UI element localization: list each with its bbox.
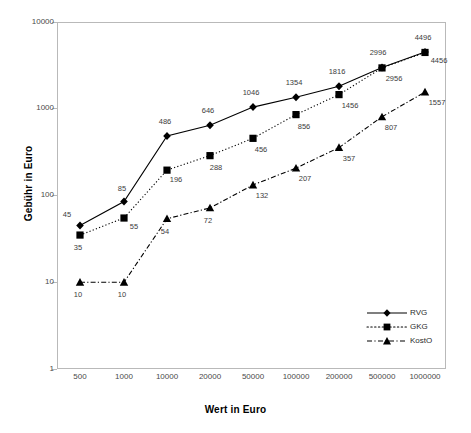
data-label: 207 — [299, 175, 312, 183]
legend-swatch-rvg — [366, 306, 408, 320]
data-label: 4456 — [431, 57, 448, 65]
legend-label-gkg: GKG — [410, 322, 428, 331]
series-kosto — [76, 88, 429, 286]
data-label: 1557 — [429, 99, 446, 107]
chart-legend: RVG GKG KostO — [366, 306, 440, 350]
data-label: 1354 — [286, 79, 303, 87]
legend-swatch-gkg — [366, 320, 408, 334]
data-label: 4496 — [415, 34, 432, 42]
legend-item-rvg[interactable]: RVG — [366, 306, 440, 320]
data-label: 1046 — [243, 89, 260, 97]
legend-label-kosto: KostO — [410, 336, 432, 345]
data-label: 35 — [74, 244, 82, 252]
data-label: 646 — [202, 107, 215, 115]
data-label: 856 — [298, 123, 311, 131]
data-label: 54 — [161, 228, 169, 236]
data-label: 486 — [159, 118, 172, 126]
data-label: 456 — [255, 146, 268, 154]
data-label: 196 — [170, 176, 183, 184]
data-label: 357 — [343, 155, 356, 163]
chart-container: 10000 1000 100 10 1 Gebühr in Euro 500 1… — [0, 0, 471, 433]
data-label: 55 — [130, 223, 138, 231]
data-label: 807 — [385, 124, 398, 132]
data-label: 288 — [210, 164, 223, 172]
legend-label-rvg: RVG — [410, 308, 427, 317]
data-label: 10 — [74, 291, 82, 299]
data-label: 132 — [256, 192, 269, 200]
data-label: 2996 — [370, 49, 387, 57]
legend-item-gkg[interactable]: GKG — [366, 320, 440, 334]
data-label: 72 — [204, 217, 212, 225]
data-label: 10 — [118, 291, 126, 299]
data-label: 1456 — [342, 102, 359, 110]
legend-item-kosto[interactable]: KostO — [366, 334, 440, 348]
data-label: 1816 — [329, 68, 346, 76]
data-label: 2956 — [386, 75, 403, 83]
legend-swatch-kosto — [366, 334, 408, 348]
data-label: 85 — [118, 185, 126, 193]
series-gkg — [76, 49, 428, 239]
data-label: 45 — [63, 211, 71, 219]
